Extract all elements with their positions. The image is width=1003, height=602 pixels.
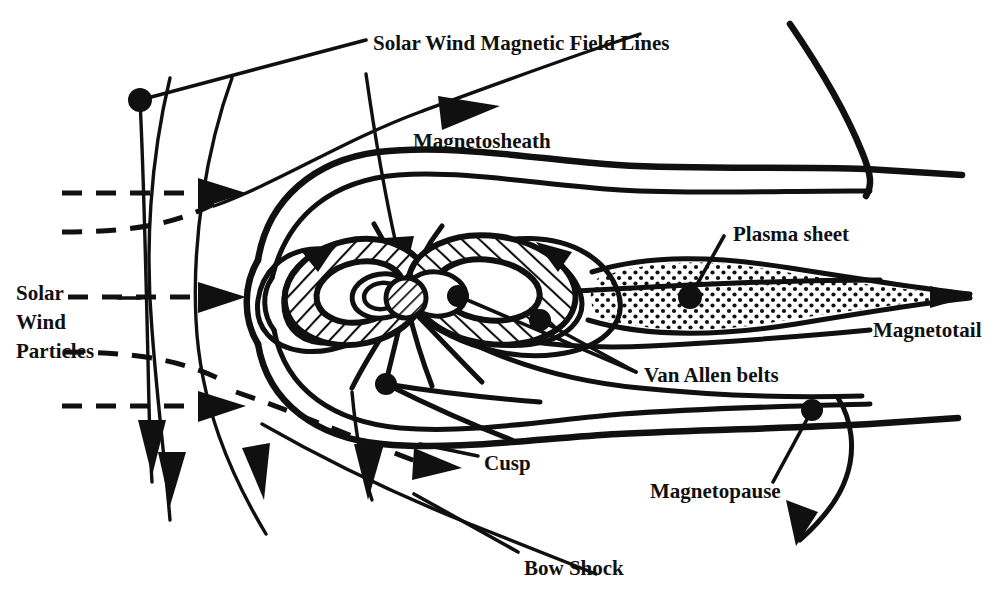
label-van-allen-belts: Van Allen belts [644, 363, 779, 387]
magnetosheath-arrowhead [438, 96, 500, 130]
label-solar-wind-particles-line1: Solar [16, 281, 64, 305]
bow-shock-arrowhead [158, 452, 186, 506]
magnetotail-arrowhead [930, 286, 972, 308]
magnetopause-leader [773, 410, 812, 482]
earth [386, 278, 426, 318]
label-solar-wind-magnetic-field-lines: Solar Wind Magnetic Field Lines [373, 31, 669, 55]
solar-wind-field-lines-leader [140, 40, 366, 100]
label-solar-wind-particles-line2: Wind [16, 310, 66, 334]
label-solar-wind-particles-line3: Particles [16, 339, 94, 363]
magnetosphere-figure: Solar Wind Magnetic Field Lines Magnetos… [0, 0, 1003, 602]
label-cusp: Cusp [484, 451, 531, 475]
label-bow-shock: Bow Shock [524, 556, 624, 580]
bow-shock-leader [414, 494, 518, 552]
label-magnetotail: Magnetotail [873, 318, 982, 342]
label-magnetopause: Magnetopause [650, 479, 781, 503]
label-plasma-sheet: Plasma sheet [733, 222, 849, 246]
magnetosphere-diagram: Solar Wind Magnetic Field Lines Magnetos… [0, 0, 1003, 602]
label-magnetosheath: Magnetosheath [413, 129, 551, 153]
